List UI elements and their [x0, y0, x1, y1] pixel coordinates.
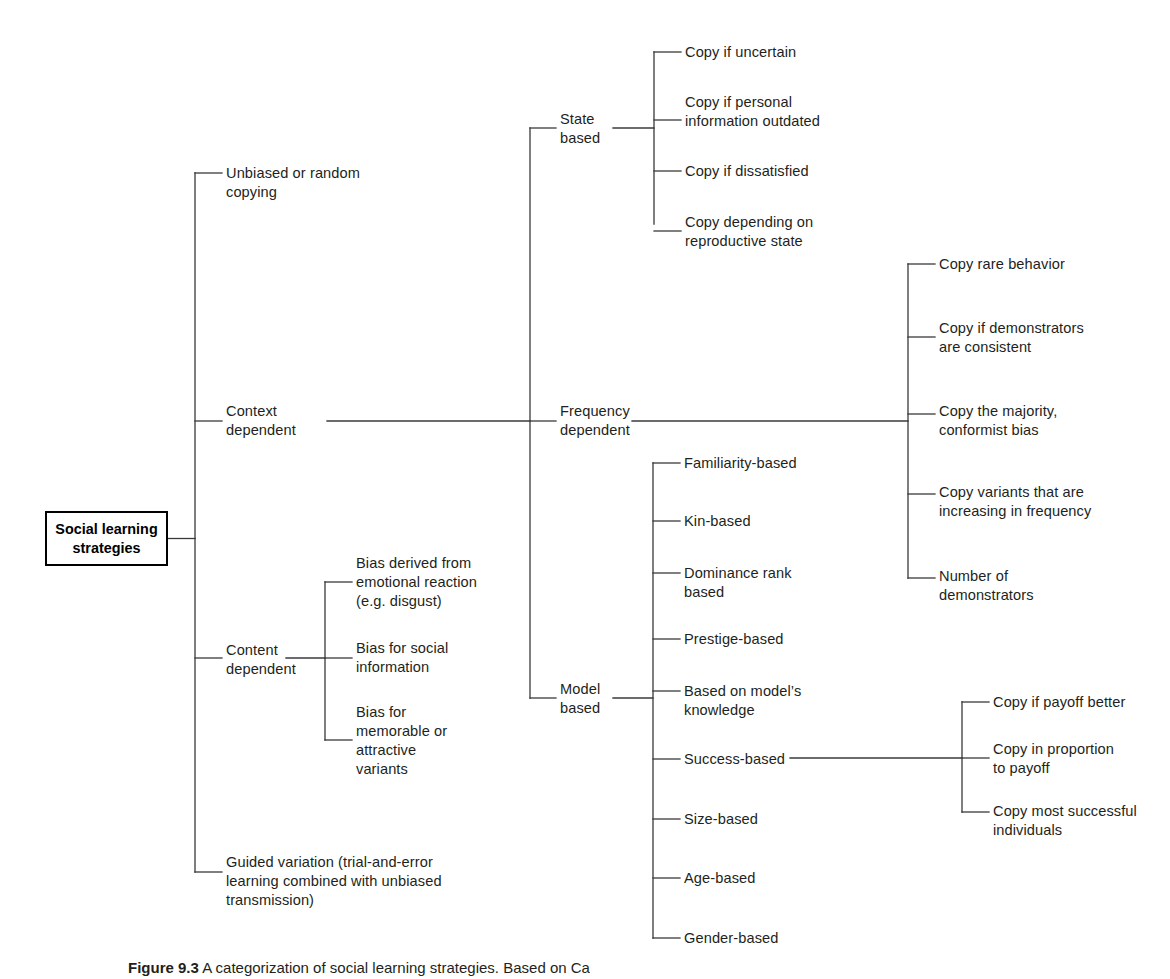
node-guided-variation[interactable]: Guided variation (trial-and-error learni…: [226, 853, 442, 910]
node-bias-for-social-information[interactable]: Bias for social information: [356, 639, 448, 677]
node-based-on-models-knowledge[interactable]: Based on model’s knowledge: [684, 682, 801, 720]
node-content-dependent[interactable]: Content dependent: [226, 641, 296, 679]
node-label: Kin-based: [684, 513, 751, 529]
node-gender-based[interactable]: Gender-based: [684, 929, 779, 948]
node-copy-variants-increasing-in-frequency[interactable]: Copy variants that are increasing in fre…: [939, 483, 1091, 521]
figure-caption: Figure 9.3 A categorization of social le…: [128, 958, 590, 978]
node-label: Number of demonstrators: [939, 568, 1034, 603]
node-label: Bias for memorable or attractive variant…: [356, 704, 447, 777]
node-dominance-rank-based[interactable]: Dominance rank based: [684, 564, 792, 602]
node-label: Bias for social information: [356, 640, 448, 675]
node-label: Age-based: [684, 870, 756, 886]
node-label: Guided variation (trial-and-error learni…: [226, 854, 442, 908]
node-model-based[interactable]: Model based: [560, 680, 600, 718]
node-label: Copy if uncertain: [685, 44, 796, 60]
node-label: Gender-based: [684, 930, 779, 946]
node-age-based[interactable]: Age-based: [684, 869, 756, 888]
node-copy-in-proportion-to-payoff[interactable]: Copy in proportion to payoff: [993, 740, 1114, 778]
node-label: Copy variants that are increasing in fre…: [939, 484, 1091, 519]
node-label: Size-based: [684, 811, 758, 827]
node-success-based[interactable]: Success-based: [684, 750, 785, 769]
root-node-social-learning-strategies[interactable]: Social learning strategies: [45, 511, 168, 566]
node-label: Copy rare behavior: [939, 256, 1065, 272]
node-label: Copy if personal information outdated: [685, 94, 820, 129]
node-label: Copy the majority, conformist bias: [939, 403, 1057, 438]
node-copy-if-personal-information-outdated[interactable]: Copy if personal information outdated: [685, 93, 820, 131]
node-label: State based: [560, 111, 600, 146]
root-node-label: Social learning strategies: [55, 520, 157, 557]
node-label: Copy if dissatisfied: [685, 163, 809, 179]
node-copy-depending-on-reproductive-state[interactable]: Copy depending on reproductive state: [685, 213, 813, 251]
node-label: Familiarity-based: [684, 455, 797, 471]
figure-caption-text: A categorization of social learning stra…: [202, 959, 590, 976]
figure-canvas: Social learning strategies Unbiased or r…: [0, 0, 1170, 979]
node-label: Copy depending on reproductive state: [685, 214, 813, 249]
node-bias-for-memorable-or-attractive-variants[interactable]: Bias for memorable or attractive variant…: [356, 703, 447, 779]
node-unbiased-or-random-copying[interactable]: Unbiased or random copying: [226, 164, 360, 202]
node-copy-the-majority-conformist-bias[interactable]: Copy the majority, conformist bias: [939, 402, 1057, 440]
node-bias-derived-from-emotional-reaction[interactable]: Bias derived from emotional reaction (e.…: [356, 554, 477, 611]
node-size-based[interactable]: Size-based: [684, 810, 758, 829]
node-label: Frequency dependent: [560, 403, 630, 438]
node-copy-if-uncertain[interactable]: Copy if uncertain: [685, 43, 796, 62]
node-copy-rare-behavior[interactable]: Copy rare behavior: [939, 255, 1065, 274]
node-copy-if-payoff-better[interactable]: Copy if payoff better: [993, 693, 1125, 712]
node-frequency-dependent[interactable]: Frequency dependent: [560, 402, 630, 440]
node-label: Based on model’s knowledge: [684, 683, 801, 718]
node-label: Success-based: [684, 751, 785, 767]
node-label: Unbiased or random copying: [226, 165, 360, 200]
node-label: Model based: [560, 681, 600, 716]
node-label: Copy in proportion to payoff: [993, 741, 1114, 776]
node-label: Bias derived from emotional reaction (e.…: [356, 555, 477, 609]
node-label: Copy most successful individuals: [993, 803, 1137, 838]
node-label: Copy if demonstrators are consistent: [939, 320, 1084, 355]
node-label: Prestige-based: [684, 631, 784, 647]
node-label: Content dependent: [226, 642, 296, 677]
node-label: Copy if payoff better: [993, 694, 1125, 710]
node-number-of-demonstrators[interactable]: Number of demonstrators: [939, 567, 1034, 605]
node-copy-if-dissatisfied[interactable]: Copy if dissatisfied: [685, 162, 809, 181]
figure-caption-number: Figure 9.3: [128, 959, 199, 976]
node-label: Dominance rank based: [684, 565, 792, 600]
node-state-based[interactable]: State based: [560, 110, 600, 148]
node-copy-if-demonstrators-are-consistent[interactable]: Copy if demonstrators are consistent: [939, 319, 1084, 357]
node-copy-most-successful-individuals[interactable]: Copy most successful individuals: [993, 802, 1137, 840]
node-context-dependent[interactable]: Context dependent: [226, 402, 296, 440]
node-label: Context dependent: [226, 403, 296, 438]
node-prestige-based[interactable]: Prestige-based: [684, 630, 784, 649]
node-familiarity-based[interactable]: Familiarity-based: [684, 454, 797, 473]
node-kin-based[interactable]: Kin-based: [684, 512, 751, 531]
